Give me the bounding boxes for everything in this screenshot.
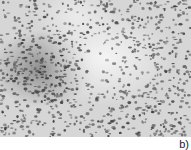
micrograph-texture (0, 0, 191, 137)
panel-label: b) (179, 138, 189, 150)
micrograph-image (0, 0, 191, 137)
